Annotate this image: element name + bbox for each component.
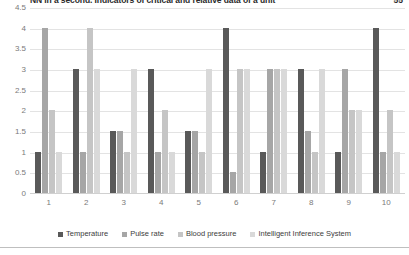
x-axis-tick-label: 9 <box>330 196 368 210</box>
legend-swatch-icon <box>122 232 127 237</box>
legend-swatch-icon <box>58 232 63 237</box>
legend-label: Intelligent Inference System <box>258 230 351 238</box>
legend-swatch-icon <box>178 232 183 237</box>
bar <box>373 28 379 193</box>
y-axis-tick-label: 4.5 <box>15 4 26 12</box>
bar <box>244 69 250 193</box>
bar-group <box>368 8 406 193</box>
bar <box>349 110 355 193</box>
bar <box>342 69 348 193</box>
bar <box>124 152 130 193</box>
x-axis-tick-label: 10 <box>368 196 406 210</box>
y-axis-tick-label: 2.5 <box>15 87 26 95</box>
bar <box>56 152 62 193</box>
bar <box>162 110 168 193</box>
bar <box>87 28 93 193</box>
y-axis-tick-label: 0 <box>22 190 26 198</box>
chart-legend: TemperaturePulse rateBlood pressureIntel… <box>0 226 409 242</box>
bar-group <box>293 8 331 193</box>
x-axis-tick-label: 5 <box>180 196 218 210</box>
y-axis-tick-label: 2 <box>22 107 26 115</box>
y-axis-tick-label: 3.5 <box>15 45 26 53</box>
bar <box>380 152 386 193</box>
bar <box>155 152 161 193</box>
figure-caption-text: NN in a second. Indicators of critical a… <box>30 0 275 5</box>
bar <box>319 69 325 193</box>
bar-group <box>255 8 293 193</box>
y-axis: 4.543.532.521.510.50 <box>0 8 30 194</box>
bar-chart-figure: NN in a second. Indicators of critical a… <box>0 0 409 255</box>
plot-area <box>30 8 405 194</box>
bar <box>335 152 341 193</box>
y-axis-tick-label: 4 <box>22 25 26 33</box>
x-axis-tick-label: 6 <box>218 196 256 210</box>
page-number: 55 <box>394 0 403 5</box>
bar <box>356 110 362 193</box>
bar <box>49 110 55 193</box>
bar <box>387 110 393 193</box>
bar <box>206 69 212 193</box>
legend-label: Pulse rate <box>130 230 164 238</box>
bar <box>274 69 280 193</box>
x-axis-tick-label: 2 <box>68 196 106 210</box>
bar-group <box>180 8 218 193</box>
bar <box>223 28 229 193</box>
x-axis-tick-label: 7 <box>255 196 293 210</box>
y-axis-tick-label: 1 <box>22 149 26 157</box>
figure-caption-strip: NN in a second. Indicators of critical a… <box>0 0 409 7</box>
bar <box>73 69 79 193</box>
bar <box>185 131 191 193</box>
bar <box>237 69 243 193</box>
bar <box>117 131 123 193</box>
x-axis-tick-label: 8 <box>293 196 331 210</box>
bar-group <box>330 8 368 193</box>
x-axis-tick-label: 3 <box>105 196 143 210</box>
plot-wrapper: 4.543.532.521.510.50 12345678910 <box>0 8 409 208</box>
bar <box>394 152 400 193</box>
bar-group <box>143 8 181 193</box>
bar-group <box>105 8 143 193</box>
y-axis-tick-label: 1.5 <box>15 128 26 136</box>
legend-item[interactable]: Intelligent Inference System <box>250 230 351 238</box>
bar <box>35 152 41 193</box>
x-axis-tick-label: 4 <box>143 196 181 210</box>
y-axis-tick-label: 3 <box>22 66 26 74</box>
bottom-divider <box>0 247 409 248</box>
bar <box>42 28 48 193</box>
bars-layer <box>30 8 405 193</box>
legend-item[interactable]: Pulse rate <box>122 230 164 238</box>
bar <box>199 152 205 193</box>
bar-group <box>218 8 256 193</box>
legend-label: Temperature <box>66 230 108 238</box>
bar <box>94 69 100 193</box>
bar-group <box>68 8 106 193</box>
bar <box>281 69 287 193</box>
legend-item[interactable]: Temperature <box>58 230 108 238</box>
bar <box>312 152 318 193</box>
legend-label: Blood pressure <box>186 230 236 238</box>
x-axis: 12345678910 <box>30 196 405 210</box>
bar <box>110 131 116 193</box>
bar <box>230 172 236 193</box>
legend-swatch-icon <box>250 232 255 237</box>
bar-group <box>30 8 68 193</box>
bar <box>298 69 304 193</box>
bar <box>131 69 137 193</box>
x-axis-tick-label: 1 <box>30 196 68 210</box>
bar <box>267 69 273 193</box>
legend-item[interactable]: Blood pressure <box>178 230 236 238</box>
bar <box>148 69 154 193</box>
y-axis-tick-label: 0.5 <box>15 169 26 177</box>
bar <box>169 152 175 193</box>
bar <box>192 131 198 193</box>
bar <box>80 152 86 193</box>
bar <box>305 131 311 193</box>
bar <box>260 152 266 193</box>
